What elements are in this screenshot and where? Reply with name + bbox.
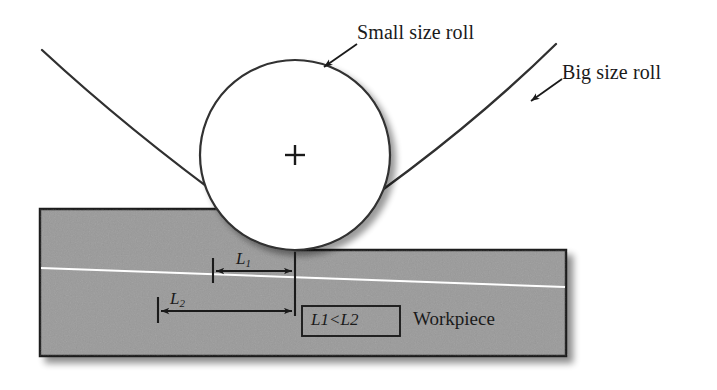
l2-subscript: 2 [179, 297, 185, 309]
l1-subscript: 1 [245, 257, 251, 269]
inequality-right-subscript: 2 [350, 310, 359, 329]
small-roll-leader [324, 44, 357, 67]
l2-dimension-label: L2 [170, 290, 185, 309]
inequality-label: L1<L2 [311, 311, 359, 328]
inequality-operator: < [329, 310, 341, 329]
l1-dimension-label: L1 [236, 250, 251, 269]
inequality-left-subscript: 1 [320, 310, 329, 329]
inequality-right-symbol: L [341, 310, 350, 329]
small-roll-label: Small size roll [357, 22, 474, 42]
big-roll-leader [531, 79, 562, 101]
diagram-canvas [0, 0, 717, 390]
big-roll-label: Big size roll [562, 62, 661, 82]
rolling-diagram-figure: Small size roll Big size roll L1 L2 L1<L… [0, 0, 717, 390]
workpiece-label: Workpiece [413, 309, 495, 328]
